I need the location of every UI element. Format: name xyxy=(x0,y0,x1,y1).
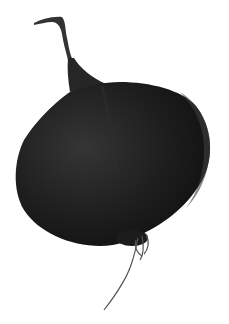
stem-tip xyxy=(34,17,72,60)
photo-canvas xyxy=(0,0,229,324)
onion-bulb xyxy=(16,82,210,246)
onion-illustration xyxy=(0,0,229,324)
